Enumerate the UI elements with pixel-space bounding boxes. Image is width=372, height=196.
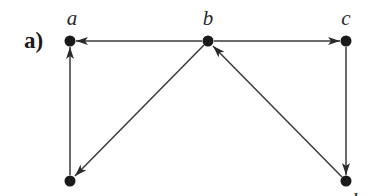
directed-graph-figure: a) a b c d <box>0 0 372 196</box>
node-e <box>65 176 76 187</box>
graph-svg <box>0 0 372 196</box>
node-b <box>203 36 214 47</box>
edge-d-to-b <box>213 46 342 177</box>
node-d <box>341 176 352 187</box>
node-a <box>65 36 76 47</box>
node-c <box>341 36 352 47</box>
edge-b-to-e <box>75 45 204 176</box>
